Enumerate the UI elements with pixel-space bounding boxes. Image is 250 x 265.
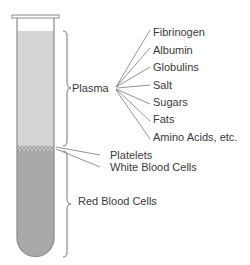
wbc-leader [56,149,100,167]
test-tube-rim [12,15,59,18]
tube-contents [17,31,54,261]
component-salt: Salt [153,79,172,92]
component-sugars: Sugars [153,96,188,109]
plasma-component-leaders [116,30,150,139]
component-globulins: Globulins [153,61,199,74]
component-fibrinogen: Fibrinogen [153,26,205,39]
platelets-leader [56,147,100,155]
red-cells-brace [63,151,71,257]
component-albumin: Albumin [153,44,193,57]
component-fats: Fats [153,113,174,126]
plasma-label: Plasma [72,82,109,95]
component-amino-acids: Amino Acids, etc. [153,131,237,144]
plasma-layer [17,31,54,146]
buffy-coat-layer [17,146,54,151]
plasma-brace [63,31,71,146]
red-blood-cells-label: Red Blood Cells [78,195,157,208]
white-blood-cells-label: White Blood Cells [110,161,197,174]
red-cells-layer [17,151,54,261]
